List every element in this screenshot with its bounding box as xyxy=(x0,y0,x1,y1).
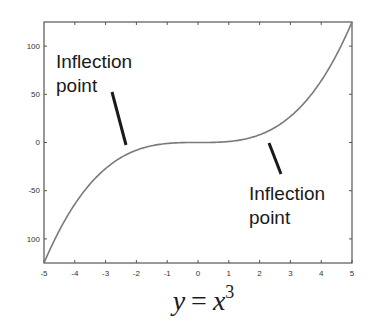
annotation-left-line2: point xyxy=(56,74,132,98)
formula-caption: y=x3 xyxy=(0,282,377,317)
formula-exponent: 3 xyxy=(225,282,234,302)
formula-base: x xyxy=(213,285,225,316)
annotation-pointer-left xyxy=(112,92,126,145)
annotation-right: Inflection point xyxy=(249,182,325,230)
annotation-right-line2: point xyxy=(249,206,325,230)
annotation-left-line1: Inflection xyxy=(56,50,132,74)
annotation-right-line1: Inflection xyxy=(249,182,325,206)
annotation-left: Inflection point xyxy=(56,50,132,98)
formula-equals: = xyxy=(185,285,213,316)
annotation-pointer-right xyxy=(269,143,281,174)
formula-lhs: y xyxy=(173,285,185,316)
